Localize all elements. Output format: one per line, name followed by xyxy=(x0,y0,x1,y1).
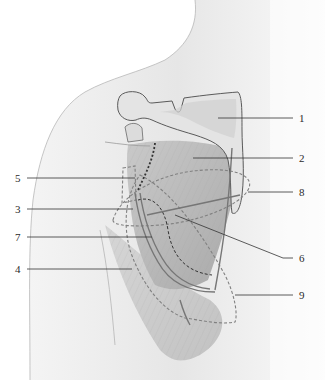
label-8: 8 xyxy=(299,187,305,198)
label-1: 1 xyxy=(299,113,305,124)
label-6: 6 xyxy=(299,253,305,264)
label-9: 9 xyxy=(299,290,305,301)
label-7: 7 xyxy=(15,232,21,243)
label-5: 5 xyxy=(15,173,21,184)
label-2: 2 xyxy=(299,153,305,164)
shoulder-anatomy-illustration xyxy=(0,0,325,380)
label-4: 4 xyxy=(15,264,21,275)
label-3: 3 xyxy=(15,204,21,215)
